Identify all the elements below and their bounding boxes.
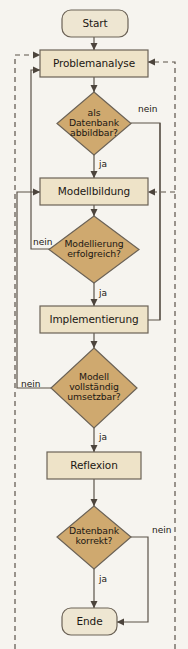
edge-decision-modellierung-nein-loop: [31, 70, 57, 249]
node-reflexion[interactable]: [47, 452, 141, 479]
node-decision-modellierung[interactable]: [49, 216, 139, 283]
node-decision-datenbank[interactable]: [57, 92, 131, 155]
edge-label-datenbank-ja: ja: [99, 159, 107, 169]
edge-label-modell-nein: nein: [21, 379, 40, 389]
node-modellbildung[interactable]: [40, 178, 148, 205]
edge-decision-modell-nein-loop: [17, 192, 51, 388]
edge-label-modellierung-ja: ja: [99, 288, 107, 298]
node-decision-modell[interactable]: [51, 348, 137, 428]
edge-dashed-left-feedback: [15, 55, 40, 649]
node-layer: [40, 10, 148, 635]
edge-label-korrekt-nein: nein: [152, 525, 171, 535]
node-ende[interactable]: [62, 608, 117, 635]
node-decision-korrekt[interactable]: [57, 506, 131, 569]
edge-decision-datenbank-nein-loop: [107, 123, 160, 320]
flowchart-canvas: [0, 0, 188, 649]
edge-dashed-right-feedback: [148, 62, 175, 649]
edge-label-datenbank-nein: nein: [138, 104, 157, 114]
node-implementierung[interactable]: [40, 306, 148, 333]
edge-decision-korrekt-nein-loop: [117, 537, 148, 622]
edge-label-korrekt-ja: ja: [99, 574, 107, 584]
node-start[interactable]: [62, 10, 128, 37]
edge-label-modell-ja: ja: [99, 432, 107, 442]
node-problemanalyse[interactable]: [40, 50, 148, 77]
edge-label-modellierung-nein: nein: [33, 237, 52, 247]
